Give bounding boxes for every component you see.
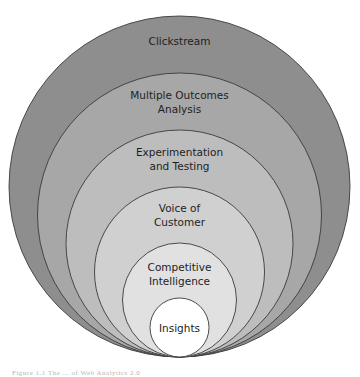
ring-label: Clickstream	[149, 35, 211, 47]
ring-label: Voice of	[159, 202, 201, 214]
ring-label: Multiple Outcomes	[130, 89, 228, 101]
ring-label: Customer	[154, 216, 206, 228]
ring-label: Insights	[159, 322, 200, 334]
ring-insights: Insights	[150, 298, 209, 357]
ring-label: and Testing	[149, 160, 209, 172]
nested-circles-diagram: ClickstreamMultiple OutcomesAnalysisExpe…	[0, 0, 360, 377]
ring-label: Analysis	[158, 103, 201, 115]
figure-caption: Figure 1.1 The ... of Web Analytics 2.0	[12, 369, 140, 377]
ring-label: Experimentation	[136, 146, 223, 158]
ring-label: Competitive	[148, 261, 212, 273]
ring-label: Intelligence	[149, 275, 210, 287]
